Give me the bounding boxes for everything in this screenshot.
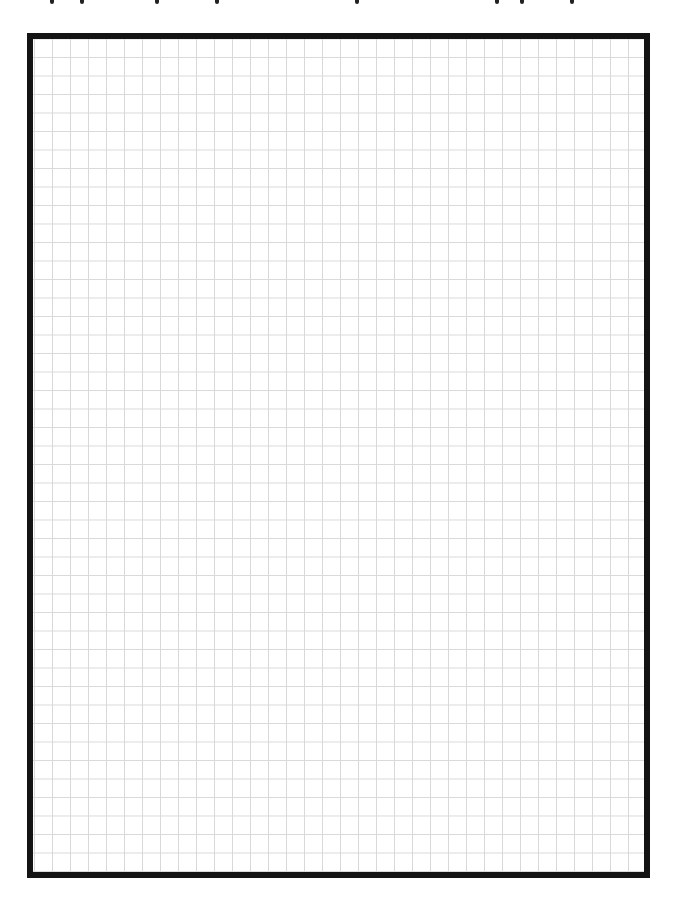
text-descender: [215, 0, 219, 4]
graph-paper-grid: [27, 33, 650, 878]
text-descender: [355, 0, 359, 4]
text-descender: [50, 0, 54, 4]
text-descender: [495, 0, 499, 4]
text-descender: [80, 0, 84, 4]
text-descender: [155, 0, 159, 4]
text-descender: [570, 0, 574, 4]
text-descender: [520, 0, 524, 4]
clipped-header-text: [0, 0, 677, 6]
